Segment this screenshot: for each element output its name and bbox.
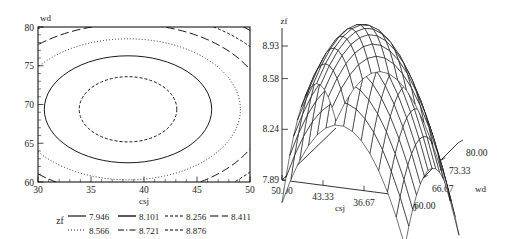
contour-level-8876	[79, 77, 177, 142]
contour-xtick-1: 35	[86, 185, 96, 195]
surface-ztick-1: 8.24	[262, 124, 279, 134]
contour-ytick-4: 80	[25, 23, 35, 33]
surface-plot-panel: 7.89 8.24 8.58 8.93 zf 50.00 43.33	[262, 0, 513, 239]
surface-xtick-0: 50.00	[271, 186, 293, 196]
contour-x-axis: 30 35 40 45 50	[33, 177, 255, 196]
response-surface-figure: 60 65 70 75 80 wd	[0, 0, 513, 239]
contour-xtick-0: 30	[33, 185, 43, 195]
contour-y-axis: 60 65 70 75 80	[25, 23, 44, 188]
surface-ztick-3: 8.93	[262, 41, 279, 51]
legend-label-8101: 8.101	[139, 212, 159, 222]
surface-y-axis-title: wd	[475, 184, 486, 194]
contour-level-8566	[16, 39, 241, 180]
contour-ytick-2: 70	[25, 100, 35, 110]
contour-plot-frame	[38, 27, 250, 182]
surface-xtick-1: 43.33	[312, 192, 334, 202]
surface-ztick-2: 8.58	[262, 74, 279, 84]
contour-level-8101	[0, 1, 306, 218]
surface-ytick-3: 80.00	[466, 148, 488, 158]
legend-label-8876: 8.876	[186, 226, 207, 236]
legend-title: zf	[56, 216, 64, 226]
contour-xtick-4: 50	[245, 185, 255, 195]
contour-xtick-2: 40	[139, 185, 149, 195]
contour-plot-svg: 60 65 70 75 80 wd	[0, 0, 262, 239]
surface-z-axis-title: zf	[281, 16, 288, 26]
surface-x-axis-title: csj	[335, 203, 345, 213]
surface-ztick-0: 7.89	[262, 175, 279, 185]
contour-x-axis-title: csj	[139, 196, 149, 206]
contour-legend: zf 7.946 8.101 8.256 8.411 8.566 8.721 8…	[56, 212, 251, 236]
surface-z-ticks: 7.89 8.24 8.58 8.93	[262, 41, 288, 185]
surface-xtick-2: 36.67	[353, 198, 375, 208]
surface-plot-svg: 7.89 8.24 8.58 8.93 zf 50.00 43.33	[262, 0, 513, 239]
contour-xtick-3: 45	[192, 185, 202, 195]
legend-label-7946: 7.946	[89, 212, 110, 222]
surface-ytick-0: 60.00	[414, 201, 436, 211]
contour-plot-panel: 60 65 70 75 80 wd	[0, 0, 262, 239]
contour-y-axis-title: wd	[40, 13, 51, 23]
contour-level-8721	[44, 56, 211, 163]
surface-ytick-2: 73.33	[449, 166, 471, 176]
contour-level-8256	[0, 12, 287, 207]
legend-label-8411: 8.411	[231, 212, 251, 222]
legend-label-8566: 8.566	[89, 226, 110, 236]
legend-label-8721: 8.721	[139, 226, 159, 236]
legend-label-8256: 8.256	[186, 212, 207, 222]
contour-ytick-1: 65	[25, 139, 35, 149]
contour-ytick-3: 75	[25, 61, 35, 71]
contour-level-8411	[0, 24, 266, 195]
surface-ytick-1: 66.67	[432, 184, 454, 194]
